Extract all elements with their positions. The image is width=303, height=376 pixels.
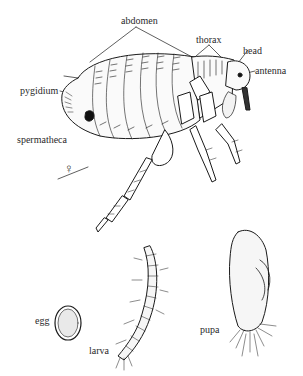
pupa-illustration xyxy=(229,230,276,356)
label-larva: larva xyxy=(89,346,109,356)
flea-life-cycle-diagram: abdomen thorax head antenna pygidium spe… xyxy=(0,0,303,376)
label-thorax: thorax xyxy=(196,35,222,45)
adult-flea xyxy=(62,53,250,232)
female-symbol: ♀ xyxy=(64,162,74,175)
label-spermatheca: spermatheca xyxy=(17,135,67,145)
label-egg: egg xyxy=(35,316,49,326)
label-head: head xyxy=(243,46,262,56)
label-abdomen: abdomen xyxy=(121,16,158,26)
label-pupa: pupa xyxy=(200,325,219,335)
egg-illustration xyxy=(55,306,81,340)
label-antenna: antenna xyxy=(255,66,286,76)
label-pygidium: pygidium xyxy=(20,86,58,96)
larva-illustration xyxy=(116,246,168,370)
